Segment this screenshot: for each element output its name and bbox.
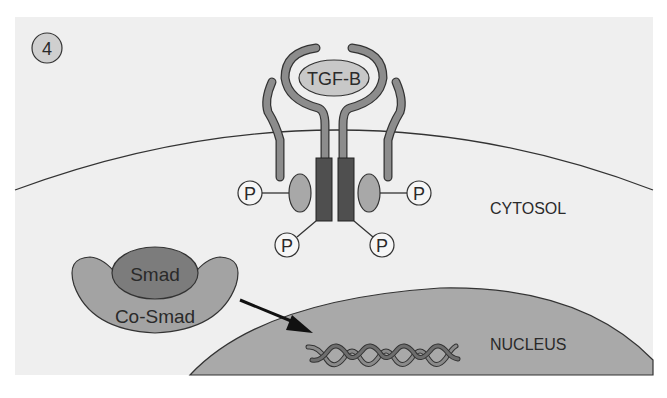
phosphate-label: P — [413, 184, 425, 204]
kinase-domain-left — [316, 158, 332, 221]
co-smad-label: Co-Smad — [115, 306, 195, 327]
tgf-beta-signaling-diagram: 4 TGF-B P P — [0, 0, 667, 398]
phosphate-label: P — [281, 236, 293, 256]
phosphate-label: P — [244, 184, 256, 204]
ligand-label: TGF-B — [307, 69, 361, 89]
step-number: 4 — [42, 39, 52, 59]
phosphate-group: P — [370, 233, 394, 257]
phosphate-label: P — [376, 236, 388, 256]
receptor-knob-left — [289, 174, 311, 212]
kinase-domain-right — [338, 158, 354, 221]
smad-label: Smad — [130, 264, 180, 285]
phosphate-group: P — [238, 181, 262, 205]
step-number-badge: 4 — [32, 33, 62, 63]
nucleus-label: NUCLEUS — [490, 336, 566, 353]
phosphate-group: P — [407, 181, 431, 205]
cytosol-label: CYTOSOL — [490, 200, 566, 217]
receptor-knob-right — [358, 174, 380, 212]
phosphate-group: P — [275, 233, 299, 257]
